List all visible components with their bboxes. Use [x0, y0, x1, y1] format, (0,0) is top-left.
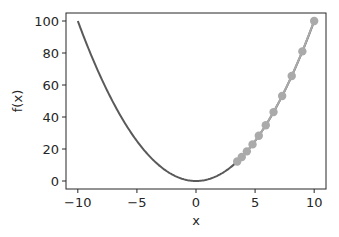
trajectory-point-5 — [262, 121, 270, 129]
y-tick-label: 80 — [42, 46, 59, 61]
trajectory-point-6 — [255, 132, 263, 140]
trajectory-point-3 — [278, 92, 286, 100]
plot-area — [78, 17, 319, 181]
x-tick-label: −5 — [127, 195, 146, 210]
x-tick-label: 0 — [192, 195, 200, 210]
trajectory-line — [237, 21, 314, 162]
trajectory-point-7 — [248, 140, 256, 148]
trajectory-point-10 — [233, 157, 241, 165]
x-tick-label: 5 — [251, 195, 259, 210]
trajectory-point-1 — [298, 47, 306, 55]
axes-frame — [66, 13, 326, 189]
trajectory-point-0 — [310, 17, 318, 25]
y-tick-label: 0 — [51, 174, 59, 189]
y-tick-label: 40 — [42, 110, 59, 125]
x-axis-label: x — [192, 213, 200, 228]
y-tick-label: 60 — [42, 78, 59, 93]
trajectory-point-2 — [288, 72, 296, 80]
x-tick-label: −10 — [64, 195, 91, 210]
y-tick-label: 100 — [34, 14, 59, 29]
y-tick-label: 20 — [42, 142, 59, 157]
y-axis: 020406080100 — [34, 14, 66, 189]
trajectory-point-4 — [269, 108, 277, 116]
x-axis: −10−50510 — [64, 189, 322, 210]
x-tick-label: 10 — [306, 195, 323, 210]
chart: −10−50510 020406080100 x f(x) — [0, 0, 339, 237]
y-axis-label: f(x) — [10, 90, 25, 112]
